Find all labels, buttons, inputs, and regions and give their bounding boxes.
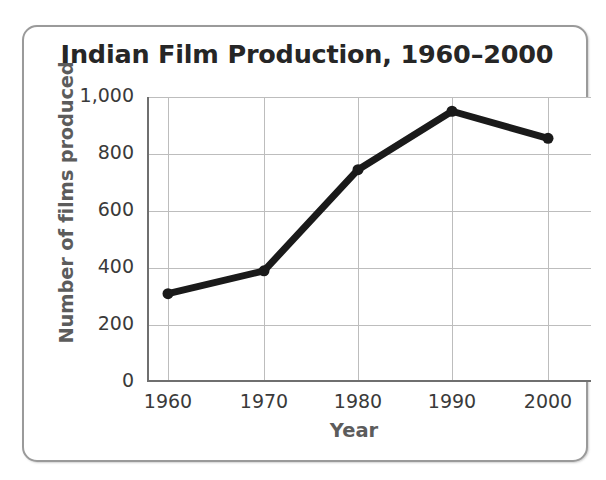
x-tick-label: 1970 (219, 390, 309, 412)
x-tick-label: 2000 (503, 390, 593, 412)
x-axis-title: Year (144, 419, 564, 442)
data-point-marker (543, 133, 554, 144)
data-point-marker (163, 288, 174, 299)
y-tick-label: 800 (48, 141, 134, 163)
series-line (168, 111, 548, 293)
y-tick-label: 0 (48, 369, 134, 391)
data-point-marker (353, 164, 364, 175)
y-tick-label: 400 (48, 255, 134, 277)
line-series (147, 97, 591, 382)
data-point-marker (447, 106, 458, 117)
plot-area: 02004006008001,000 19601970198019902000 (147, 97, 591, 382)
chart-figure: Indian Film Production, 1960–2000 Number… (0, 0, 606, 480)
chart-title: Indian Film Production, 1960–2000 (48, 39, 566, 69)
y-tick-label: 200 (48, 312, 134, 334)
x-tick-label: 1980 (313, 390, 403, 412)
y-tick-label: 1,000 (48, 84, 134, 106)
data-point-marker (259, 265, 270, 276)
y-tick-label: 600 (48, 198, 134, 220)
chart-card-frame: Indian Film Production, 1960–2000 Number… (22, 25, 588, 462)
x-tick-label: 1990 (407, 390, 497, 412)
x-tick-label: 1960 (123, 390, 213, 412)
